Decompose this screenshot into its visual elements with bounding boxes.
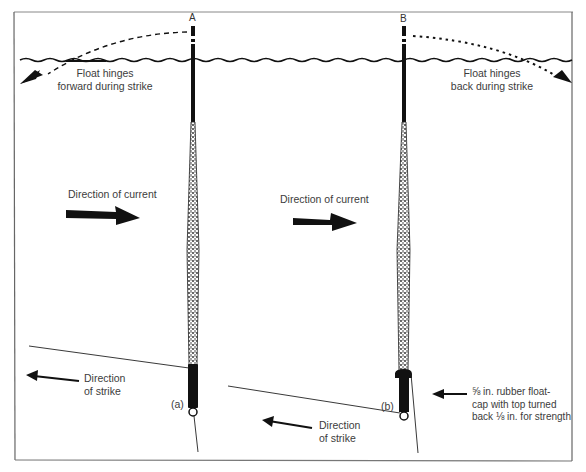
current-arrow-a xyxy=(66,206,140,225)
float-strike-diagram: A B Float hinges forward during strike F… xyxy=(0,0,586,472)
line-to-rod-b xyxy=(228,386,400,413)
hinge-arrowhead-b xyxy=(553,70,572,83)
float-b xyxy=(395,26,418,453)
strike-label-b: Direction of strike xyxy=(319,419,360,444)
float-a-sub-label: (a) xyxy=(171,398,184,411)
current-label-b: Direction of current xyxy=(280,193,369,206)
current-arrow-b xyxy=(293,213,357,231)
line-to-rod-a xyxy=(29,346,189,368)
strike-arrow-a xyxy=(26,370,79,381)
float-b-sub-label: (b) xyxy=(381,400,394,413)
float-a xyxy=(187,26,199,452)
cap-label: ⅝ in. rubber float- cap with top turned … xyxy=(472,386,571,424)
float-a-letter: A xyxy=(189,12,196,23)
float-b-letter: B xyxy=(400,13,407,24)
strike-arrow-b xyxy=(262,416,312,428)
current-label-a: Direction of current xyxy=(68,188,157,201)
strike-label-a: Direction of strike xyxy=(84,372,125,397)
hinge-label-b: Float hinges back during strike xyxy=(442,67,542,92)
cap-pointer-arrow xyxy=(432,389,467,399)
hinge-label-a: Float hinges forward during strike xyxy=(55,67,155,92)
